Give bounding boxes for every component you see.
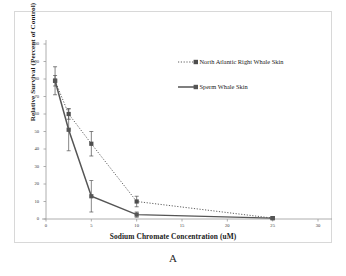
data-point-marker xyxy=(135,199,139,203)
y-tick-label: 10 xyxy=(25,199,39,204)
legend-marker-1 xyxy=(194,85,198,89)
data-point-marker xyxy=(67,128,71,132)
data-point-marker xyxy=(271,216,275,220)
legend-marker-0 xyxy=(194,60,198,64)
y-tick-label: 30 xyxy=(25,164,39,169)
data-point-marker xyxy=(89,194,93,198)
series-line-0 xyxy=(55,81,273,218)
legend-marker-group xyxy=(178,60,198,89)
x-tick-label: 15 xyxy=(175,223,189,228)
legend-item-sperm-whale-skin: Sperm Whale Skin xyxy=(200,83,248,90)
figure-panel-a: 0102030405060708090100 051015202530 Rela… xyxy=(0,0,346,276)
panel-letter: A xyxy=(0,252,346,264)
data-point-marker xyxy=(89,142,93,146)
y-axis-title: Relative Survival (Percent of Control) xyxy=(29,0,37,147)
data-point-marker xyxy=(53,79,57,83)
series-line-1 xyxy=(55,81,273,218)
x-tick-label: 30 xyxy=(311,223,325,228)
x-tick-label: 5 xyxy=(84,223,98,228)
x-tick-label: 20 xyxy=(220,223,234,228)
legend-item-north-atlantic-right-whale-skin: North Atlantic Right Whale Skin xyxy=(200,58,284,65)
x-axis-title: Sodium Chromate Concentration (uM) xyxy=(0,232,346,241)
x-tick-label: 10 xyxy=(130,223,144,228)
axes-group xyxy=(42,40,332,222)
y-tick-label: 0 xyxy=(25,216,39,221)
y-tick-label: 40 xyxy=(25,146,39,151)
x-tick-label: 0 xyxy=(39,223,53,228)
data-point-marker xyxy=(135,213,139,217)
x-tick-label: 25 xyxy=(266,223,280,228)
y-tick-label: 20 xyxy=(25,181,39,186)
